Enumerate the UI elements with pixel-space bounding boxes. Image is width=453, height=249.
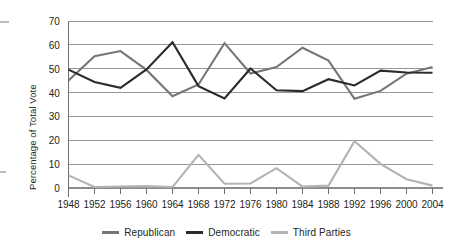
- chart-legend: RepublicanDemocraticThird Parties: [0, 222, 453, 242]
- x-tick-label: 1996: [370, 199, 392, 210]
- x-tick-label: 1984: [292, 199, 314, 210]
- x-tick-label: 1980: [266, 199, 288, 210]
- x-tick-label: 2004: [422, 199, 444, 210]
- x-tick-label: 1968: [188, 199, 210, 210]
- legend-label: Republican: [124, 227, 175, 238]
- x-tick-label: 1976: [240, 199, 262, 210]
- legend-item[interactable]: Republican: [102, 227, 175, 238]
- x-tick-label: 1952: [84, 199, 106, 210]
- x-tick-label: 1948: [58, 199, 80, 210]
- x-tick-label: 2000: [396, 199, 418, 210]
- legend-item[interactable]: Third Parties: [271, 227, 351, 238]
- legend-swatch-icon: [271, 231, 288, 234]
- x-axis-ticks: [69, 188, 433, 194]
- series-line-democratic: [69, 42, 433, 98]
- legend-label: Third Parties: [293, 227, 351, 238]
- x-tick-label: 1972: [214, 199, 236, 210]
- legend-label: Democratic: [208, 227, 260, 238]
- x-tick-label: 1988: [318, 199, 340, 210]
- line-chart: Percentage of Total Vote 010203040506070…: [0, 0, 453, 249]
- legend-swatch-icon: [102, 231, 119, 234]
- x-tick-label: 1960: [136, 199, 158, 210]
- legend-item[interactable]: Democratic: [186, 227, 260, 238]
- x-axis-tick-labels: 1948195219561960196419681972197619801984…: [0, 197, 453, 215]
- x-tick-label: 1956: [110, 199, 132, 210]
- legend-swatch-icon: [186, 231, 203, 234]
- x-tick-label: 1964: [162, 199, 184, 210]
- x-tick-label: 1992: [344, 199, 366, 210]
